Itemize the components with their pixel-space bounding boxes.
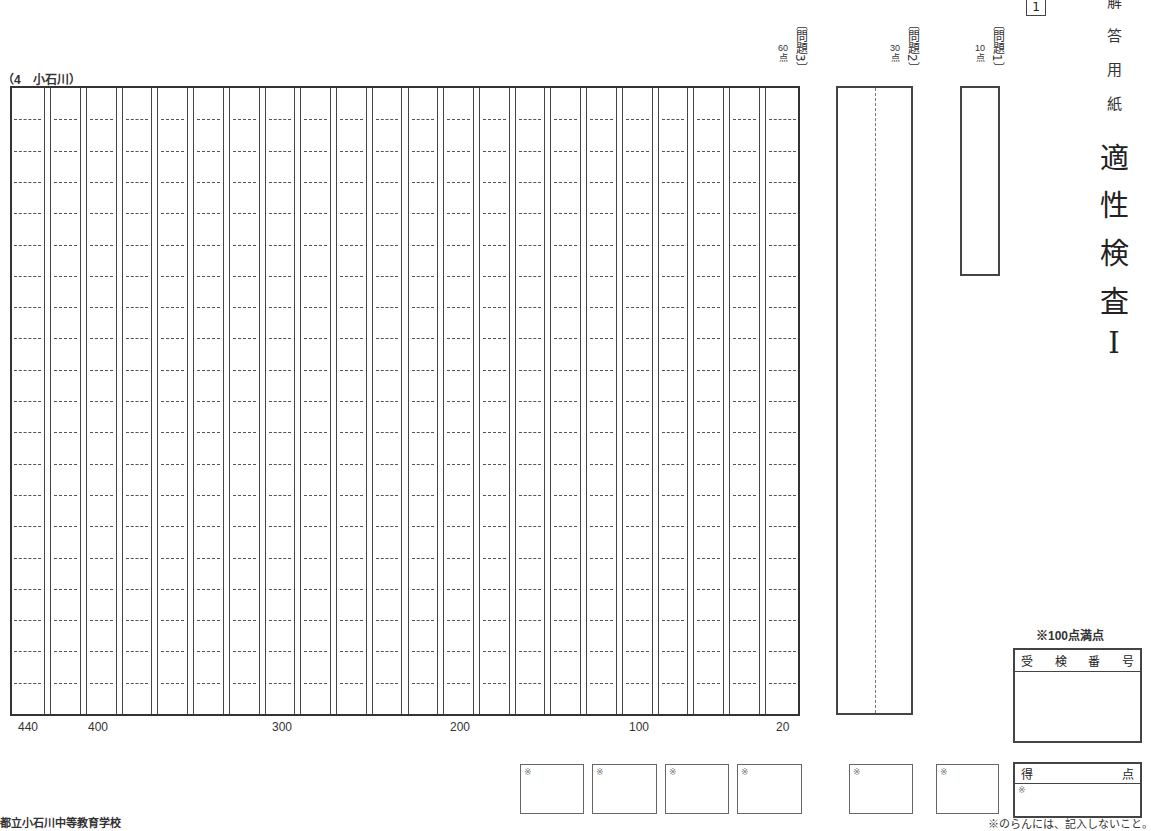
grid-row-divider	[590, 213, 613, 214]
grid-row-divider	[590, 464, 613, 465]
grid-row-divider	[662, 620, 685, 621]
grid-column[interactable]	[265, 88, 296, 714]
grid-column[interactable]	[336, 88, 367, 714]
grid-column[interactable]	[193, 88, 224, 714]
grid-row-divider	[662, 495, 685, 496]
grid-row-divider	[14, 307, 41, 308]
footer-note: ※のらんには、記入しないこと。	[988, 815, 1151, 831]
grid-column[interactable]	[658, 88, 689, 714]
grid-row-divider	[233, 182, 256, 183]
grid-count-label: 440	[18, 720, 38, 734]
grid-column[interactable]	[50, 88, 81, 714]
grid-column[interactable]	[765, 88, 799, 714]
grid-row-divider	[376, 151, 399, 152]
grid-row-divider	[269, 276, 292, 277]
grid-row-divider	[340, 245, 363, 246]
grid-row-divider	[769, 432, 796, 433]
grid-row-divider	[483, 119, 506, 120]
grid-row-divider	[304, 245, 327, 246]
grid-row-divider	[340, 370, 363, 371]
grid-row-divider	[733, 526, 756, 527]
grid-row-divider	[483, 151, 506, 152]
grid-row-divider	[161, 401, 184, 402]
grid-row-divider	[161, 338, 184, 339]
grid-row-divider	[626, 370, 649, 371]
grid-row-divider	[590, 245, 613, 246]
points-unit: 点	[886, 53, 904, 63]
grid-row-divider	[519, 307, 542, 308]
grid-row-divider	[376, 683, 399, 684]
grid-column[interactable]	[586, 88, 617, 714]
grid-column[interactable]	[622, 88, 653, 714]
grid-column[interactable]	[372, 88, 403, 714]
grid-row-divider	[590, 589, 613, 590]
grid-row-divider	[554, 432, 577, 433]
grid-column[interactable]	[408, 88, 439, 714]
grid-count-label: 100	[629, 720, 649, 734]
grid-row-divider	[126, 432, 149, 433]
exam-number-value[interactable]	[1015, 672, 1140, 740]
grid-row-divider	[161, 558, 184, 559]
grid-row-divider	[590, 620, 613, 621]
grid-row-divider	[126, 370, 149, 371]
question-3-label: 〔問題3〕	[794, 18, 806, 74]
grid-row-divider	[769, 307, 796, 308]
exam-number-box[interactable]: 受 検 番 号	[1013, 648, 1142, 743]
grid-row-divider	[269, 370, 292, 371]
grid-row-divider	[14, 213, 41, 214]
grid-row-divider	[412, 119, 435, 120]
grid-row-divider	[269, 589, 292, 590]
essay-grid-question-3[interactable]	[10, 86, 800, 716]
grid-column[interactable]	[300, 88, 331, 714]
grid-row-divider	[554, 401, 577, 402]
grid-row-divider	[626, 119, 649, 120]
grid-column[interactable]	[443, 88, 474, 714]
grid-row-divider	[697, 432, 720, 433]
grid-column[interactable]	[479, 88, 510, 714]
grid-row-divider	[519, 119, 542, 120]
grid-row-divider	[519, 589, 542, 590]
grid-row-divider	[376, 119, 399, 120]
grid-row-divider	[304, 370, 327, 371]
grid-row-divider	[590, 651, 613, 652]
score-box-4: ※	[737, 764, 802, 814]
grid-row-divider	[590, 683, 613, 684]
grid-row-divider	[14, 119, 41, 120]
grid-column[interactable]	[515, 88, 546, 714]
grid-row-divider	[483, 370, 506, 371]
grid-row-divider	[269, 245, 292, 246]
grid-row-divider	[733, 151, 756, 152]
total-score-mark: ※	[1015, 784, 1140, 796]
answer-box-question-1[interactable]	[960, 86, 1000, 276]
grid-row-divider	[90, 213, 113, 214]
grid-column[interactable]	[11, 88, 45, 714]
grid-row-divider	[697, 151, 720, 152]
grid-column[interactable]	[86, 88, 117, 714]
grid-column[interactable]	[729, 88, 760, 714]
grid-row-divider	[340, 432, 363, 433]
grid-row-divider	[161, 432, 184, 433]
grid-row-divider	[733, 558, 756, 559]
grid-column[interactable]	[229, 88, 260, 714]
grid-row-divider	[733, 307, 756, 308]
grid-row-divider	[376, 620, 399, 621]
answer-box-question-2[interactable]	[836, 86, 913, 715]
grid-column[interactable]	[157, 88, 188, 714]
grid-row-divider	[90, 401, 113, 402]
grid-row-divider	[590, 276, 613, 277]
school-label: （4 小石川）	[2, 70, 81, 87]
grid-row-divider	[769, 464, 796, 465]
grid-row-divider	[304, 119, 327, 120]
grid-row-divider	[447, 119, 470, 120]
grid-row-divider	[269, 307, 292, 308]
grid-row-divider	[733, 401, 756, 402]
grid-column[interactable]	[550, 88, 581, 714]
grid-row-divider	[626, 620, 649, 621]
grid-column[interactable]	[693, 88, 724, 714]
grid-row-divider	[54, 276, 77, 277]
grid-row-divider	[590, 558, 613, 559]
grid-column[interactable]	[122, 88, 153, 714]
grid-row-divider	[483, 651, 506, 652]
grid-row-divider	[733, 338, 756, 339]
grid-row-divider	[197, 119, 220, 120]
